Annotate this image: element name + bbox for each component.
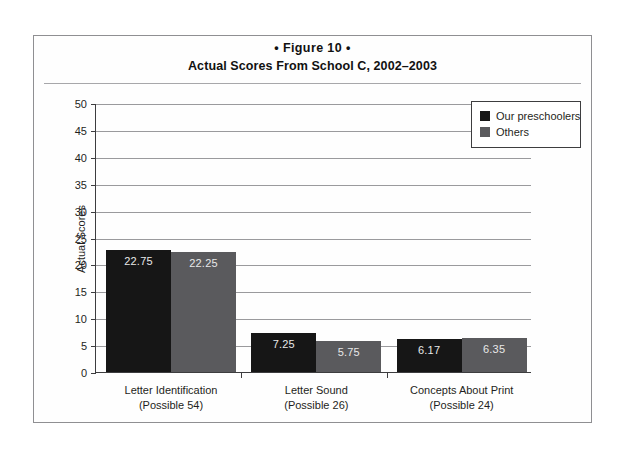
y-axis-tick-label: 50 <box>75 99 87 110</box>
y-axis-tick-mark <box>91 265 96 266</box>
category-name: Letter Identification <box>125 383 218 398</box>
y-axis-tick-mark <box>91 158 96 159</box>
legend-label: Our preschoolers <box>496 110 580 122</box>
category-possible-score: (Possible 24) <box>410 398 513 413</box>
gridline <box>96 104 531 105</box>
bar-value-label: 5.75 <box>316 346 381 358</box>
y-axis-tick-label: 0 <box>81 368 87 379</box>
y-axis-tick-mark <box>91 185 96 186</box>
category-name: Letter Sound <box>284 383 348 398</box>
figure-frame: • Figure 10 • Actual Scores From School … <box>33 35 592 423</box>
y-axis-tick-mark <box>91 212 96 213</box>
y-axis-tick-label: 10 <box>75 314 87 325</box>
bar-value-label: 6.35 <box>462 343 527 355</box>
x-axis-tick-mark <box>387 372 388 378</box>
chart-plot-wrapper: Actual Scores 0510152025303540455022.752… <box>95 104 531 373</box>
bar-value-label: 6.17 <box>397 344 462 356</box>
x-axis-tick-mark <box>241 372 242 378</box>
bar-value-label: 22.25 <box>171 257 236 269</box>
y-axis-tick-mark <box>91 292 96 293</box>
category-possible-score: (Possible 54) <box>125 398 218 413</box>
x-axis-category-label: Concepts About Print(Possible 24) <box>410 383 513 413</box>
gridline <box>96 131 531 132</box>
bar-1-2: 6.35 <box>462 338 527 372</box>
figure-number-label: • Figure 10 • <box>34 40 591 57</box>
y-axis-tick-mark <box>91 239 96 240</box>
legend-item: Others <box>480 124 572 140</box>
y-axis-tick-label: 5 <box>81 341 87 352</box>
x-axis-category-label: Letter Sound(Possible 26) <box>284 383 348 413</box>
y-axis-tick-label: 20 <box>75 260 87 271</box>
category-name: Concepts About Print <box>410 383 513 398</box>
x-axis-category-label: Letter Identification(Possible 54) <box>125 383 218 413</box>
y-axis-tick-label: 40 <box>75 152 87 163</box>
y-axis-tick-mark <box>91 319 96 320</box>
legend-swatch-icon <box>480 111 490 121</box>
chart-plot-area: 0510152025303540455022.7522.25Letter Ide… <box>95 104 531 373</box>
y-axis-tick-mark <box>91 131 96 132</box>
title-divider <box>44 83 581 84</box>
y-axis-tick-label: 35 <box>75 179 87 190</box>
bar-1-0: 22.25 <box>171 252 236 372</box>
y-axis-tick-label: 30 <box>75 206 87 217</box>
y-axis-tick-mark <box>91 104 96 105</box>
y-axis-tick-label: 25 <box>75 233 87 244</box>
y-axis-tick-mark <box>91 373 96 374</box>
y-axis-tick-label: 15 <box>75 287 87 298</box>
legend-label: Others <box>496 126 529 138</box>
bar-1-1: 5.75 <box>316 341 381 372</box>
bar-0-1: 7.25 <box>251 333 316 372</box>
legend-item: Our preschoolers <box>480 108 572 124</box>
legend-swatch-icon <box>480 127 490 137</box>
gridline <box>96 185 531 186</box>
gridline <box>96 158 531 159</box>
bar-0-0: 22.75 <box>106 250 171 372</box>
bar-value-label: 7.25 <box>251 338 316 350</box>
figure-title-block: • Figure 10 • Actual Scores From School … <box>34 40 591 75</box>
page-title: Actual Scores From School C, 2002–2003 <box>34 57 591 75</box>
bar-value-label: 22.75 <box>106 255 171 267</box>
gridline <box>96 239 531 240</box>
y-axis-tick-mark <box>91 346 96 347</box>
y-axis-tick-label: 45 <box>75 125 87 136</box>
chart-legend: Our preschoolersOthers <box>471 101 581 148</box>
category-possible-score: (Possible 26) <box>284 398 348 413</box>
bar-0-2: 6.17 <box>397 339 462 372</box>
gridline <box>96 212 531 213</box>
